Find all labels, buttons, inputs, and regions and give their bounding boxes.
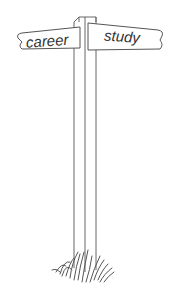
sign-career-label: career	[25, 31, 70, 51]
sign-study: study	[88, 23, 163, 50]
signpost-illustration: career study	[0, 0, 184, 296]
sign-career: career	[18, 27, 81, 51]
signpost-pole	[74, 17, 96, 272]
grass-tuft	[52, 250, 114, 282]
sign-study-label: study	[104, 27, 142, 47]
